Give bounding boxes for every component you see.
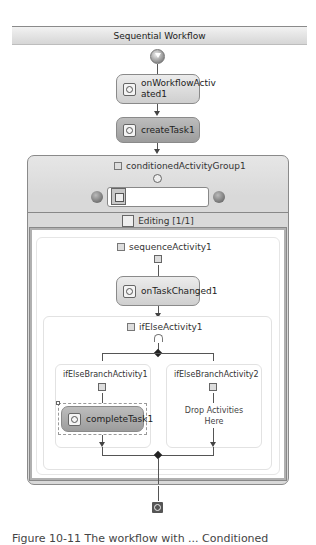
end-icon <box>152 502 163 513</box>
nav-prev-icon[interactable] <box>91 191 103 203</box>
collapse-icon[interactable] <box>127 323 135 331</box>
connector <box>213 428 214 443</box>
connector <box>213 393 214 403</box>
connector <box>102 393 103 403</box>
drop-activities-hint: Drop ActivitiesHere <box>166 405 262 427</box>
activity-label: completeTask1 <box>86 414 153 425</box>
event-icon <box>123 285 136 298</box>
activity-label: onWorkflowActivated1 <box>141 78 216 100</box>
connector <box>102 353 103 361</box>
activity-on-task-changed[interactable]: onTaskChanged1 <box>116 276 200 306</box>
selection-handle[interactable] <box>56 401 60 405</box>
connector <box>158 486 159 501</box>
activity-complete-task[interactable]: completeTask1 <box>61 406 144 432</box>
editing-bar: Editing [1/1] <box>28 212 288 228</box>
cag-condition-icon <box>153 174 162 183</box>
activity-on-workflow-activated[interactable]: onWorkflowActivated1 <box>116 74 200 104</box>
branch-1-title: ifElseBranchActivity1 <box>63 370 148 379</box>
connector <box>102 353 214 354</box>
sequence-title: sequenceActivity1 <box>117 242 212 252</box>
collapse-icon[interactable] <box>114 162 122 170</box>
workflow-header: Sequential Workflow <box>12 26 307 45</box>
figure-caption: Figure 10-11 The workflow with ... Condi… <box>12 532 268 545</box>
arrow-icon <box>154 111 160 116</box>
collapse-icon[interactable] <box>117 243 125 251</box>
task-icon <box>123 124 136 137</box>
nav-next-icon[interactable] <box>213 191 225 203</box>
start-icon <box>150 49 165 64</box>
arrow-icon <box>154 149 160 154</box>
connector <box>213 353 214 361</box>
activity-create-task[interactable]: createTask1 <box>116 117 200 143</box>
branch-2-title: ifElseBranchActivity2 <box>174 370 259 379</box>
task-icon <box>68 413 81 426</box>
connector <box>158 458 159 484</box>
connector <box>102 447 103 455</box>
connector <box>157 64 158 74</box>
if-else-title: ifElseActivity1 <box>127 322 202 332</box>
connector <box>213 447 214 455</box>
connector <box>158 265 159 276</box>
drop-target-icon <box>209 383 217 391</box>
if-else-icon <box>154 334 163 342</box>
drop-target-icon <box>154 255 162 263</box>
event-icon <box>123 83 136 96</box>
carousel-item-sequence[interactable] <box>111 188 126 205</box>
drop-target-icon <box>98 383 106 391</box>
activity-label: createTask1 <box>141 125 195 136</box>
activity-label: onTaskChanged1 <box>141 286 218 297</box>
edit-icon <box>122 215 134 227</box>
cag-title: conditionedActivityGroup1 <box>114 161 246 171</box>
